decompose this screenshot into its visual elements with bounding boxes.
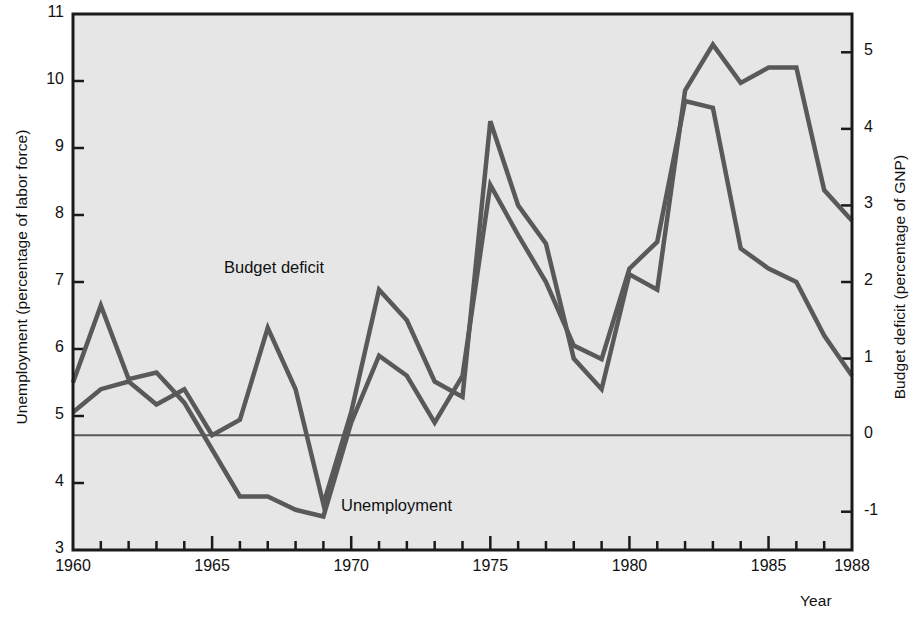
x-tick-1975: 1975 [460,557,520,575]
plot-background [73,14,852,550]
unemployment-series-label: Unemployment [341,496,452,515]
left-tick-9: 9 [24,137,64,155]
right-tick-4: 4 [864,118,908,136]
left-tick-8: 8 [24,204,64,222]
left-tick-11: 11 [24,3,64,21]
x-tick-1980: 1980 [599,557,659,575]
left-tick-6: 6 [24,338,64,356]
right-tick--1: -1 [864,501,908,519]
right-tick-5: 5 [864,41,908,59]
left-tick-4: 4 [24,472,64,490]
x-axis-title: Year [800,592,832,610]
right-tick-1: 1 [864,348,908,366]
left-tick-5: 5 [24,405,64,423]
left-tick-10: 10 [24,70,64,88]
x-tick-1988: 1988 [822,557,882,575]
x-tick-1960: 1960 [43,557,103,575]
chart-canvas [0,0,922,623]
budget-deficit-series-label: Budget deficit [224,258,324,277]
left-tick-7: 7 [24,271,64,289]
chart-figure: Unemployment (percentage of labor force)… [0,0,922,623]
right-tick-0: 0 [864,424,908,442]
x-tick-1985: 1985 [739,557,799,575]
x-tick-1970: 1970 [321,557,381,575]
left-tick-3: 3 [24,539,64,557]
right-tick-3: 3 [864,194,908,212]
right-tick-2: 2 [864,271,908,289]
x-tick-1965: 1965 [182,557,242,575]
